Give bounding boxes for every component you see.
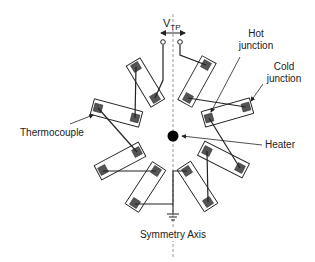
heater-dot xyxy=(168,131,179,142)
heater-leader xyxy=(182,136,262,145)
thermocouple-leader xyxy=(70,115,93,124)
wire xyxy=(188,98,246,107)
thermocouple-label: Thermocouple xyxy=(20,127,84,139)
wire xyxy=(155,45,163,98)
cold-junction-label: Cold junction xyxy=(260,61,308,85)
thermocouple-strip-7 xyxy=(201,98,253,127)
hot-junction-label-line1: Hot xyxy=(232,28,280,40)
interconnect-wires xyxy=(98,45,246,204)
terminal-right xyxy=(178,40,183,45)
cold-junction-label-line1: Cold xyxy=(260,61,308,73)
voltage-label: VTP xyxy=(163,17,181,34)
terminal-left xyxy=(161,40,166,45)
hot-junction-label-line2: junction xyxy=(232,40,280,52)
voltage-subscript: TP xyxy=(170,23,180,32)
junction xyxy=(129,197,140,208)
hot-junction-label: Hot junction xyxy=(232,28,280,52)
cold-junction-leader xyxy=(251,84,263,101)
wire xyxy=(207,151,208,202)
heater-label: Heater xyxy=(265,139,295,151)
cold-junction-label-line2: junction xyxy=(260,73,308,85)
wire xyxy=(209,118,240,168)
junction xyxy=(98,165,109,176)
wire xyxy=(180,45,206,65)
wire xyxy=(98,108,137,152)
symmetry-axis-label: Symmetry Axis xyxy=(133,229,213,241)
ground-icon xyxy=(167,204,179,220)
